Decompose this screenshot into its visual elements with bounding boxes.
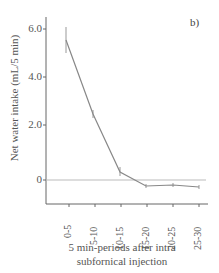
x-axis-label-line-1: 5 min-periods after intra (22, 240, 219, 254)
x-axis-label: 5 min-periods after intra subfornical in… (22, 240, 219, 268)
error-bars (66, 27, 199, 189)
x-axis-label-line-2: subfornical injection (22, 254, 219, 268)
x-tick-0-5: 0-5 (62, 225, 73, 238)
data-line (66, 40, 199, 187)
plot-area (0, 0, 219, 273)
